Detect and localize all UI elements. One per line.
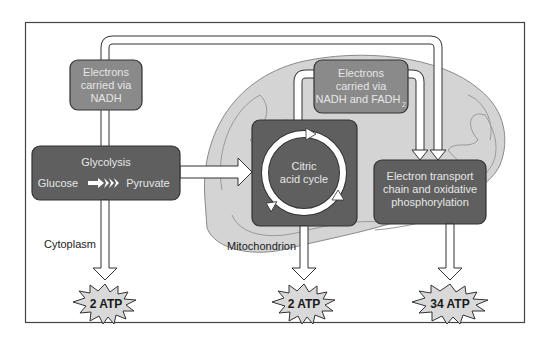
- pyruvate-label: Pyruvate: [126, 177, 169, 189]
- citric-label-line-2: acid cycle: [280, 173, 328, 185]
- cellular-respiration-diagram: Electrons carried via NADH Electrons car…: [0, 0, 549, 354]
- nadh-carrier-box: Electrons carried via NADH: [70, 60, 142, 110]
- glycolysis-box: Glycolysis Glucose Pyruvate: [32, 146, 180, 200]
- etc-label-line-3: phosphorylation: [391, 196, 469, 208]
- mitochondrion-label: Mitochondrion: [227, 240, 296, 252]
- etc-atp-value: 34 ATP: [430, 297, 469, 311]
- glycolysis-title: Glycolysis: [81, 156, 131, 168]
- nadh-fadh2-carrier-box: Electrons carried via NADH and FADH 2: [314, 60, 408, 113]
- nadh-fadh2-carrier-line-2: carried via: [336, 80, 388, 92]
- etc-label-line-1: Electron transport: [387, 170, 474, 182]
- cytoplasm-label: Cytoplasm: [44, 238, 96, 250]
- nadh-fadh2-carrier-line-1: Electrons: [338, 67, 384, 79]
- citric-atp-value: 2 ATP: [288, 297, 321, 311]
- citric-label-line-1: Citric: [291, 160, 317, 172]
- fadh2-subscript: 2: [402, 101, 406, 108]
- nadh-carrier-line-3: NADH: [90, 92, 121, 104]
- nadh-carrier-line-1: Electrons: [83, 66, 129, 78]
- electron-transport-box: Electron transport chain and oxidative p…: [374, 160, 486, 224]
- nadh-carrier-line-2: carried via: [81, 79, 133, 91]
- citric-acid-cycle-box: Citric acid cycle: [252, 120, 357, 226]
- glucose-label: Glucose: [38, 177, 78, 189]
- glycolysis-atp-value: 2 ATP: [90, 297, 123, 311]
- nadh-fadh2-carrier-line-3: NADH and FADH: [316, 93, 401, 105]
- etc-label-line-2: chain and oxidative: [383, 183, 477, 195]
